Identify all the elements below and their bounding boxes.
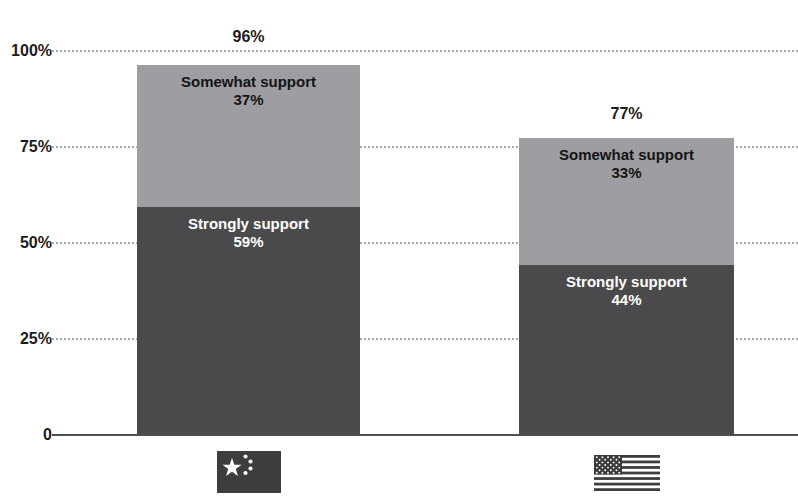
- bar-total-label-usa: 77%: [519, 105, 734, 123]
- segment-value: 44%: [611, 291, 641, 309]
- bar-segment-somewhat-support-usa[interactable]: Somewhat support 33%: [519, 138, 734, 265]
- segment-label: Strongly support: [188, 216, 309, 233]
- category-icon-wrap-china: [137, 451, 360, 493]
- bar-segment-somewhat-support-china[interactable]: Somewhat support 37%: [137, 65, 360, 207]
- y-axis-tick-0: 0: [6, 426, 52, 444]
- bar-usa[interactable]: Somewhat support 33% Strongly support 44…: [519, 138, 734, 434]
- chart-title-clipped: [0, 0, 798, 2]
- x-axis-line: [52, 434, 798, 436]
- segment-label: Somewhat support: [181, 74, 316, 91]
- gridline-100: [52, 50, 798, 52]
- category-icon-wrap-usa: [519, 455, 734, 491]
- segment-label: Strongly support: [566, 274, 687, 291]
- bar-total-label-china: 96%: [137, 28, 360, 46]
- bar-segment-strongly-support-usa[interactable]: Strongly support 44%: [519, 265, 734, 434]
- y-axis-tick-50: 50%: [6, 234, 52, 252]
- segment-value: 33%: [611, 164, 641, 182]
- china-flag-icon: [217, 451, 281, 493]
- stacked-bar-chart: 100% 75% 50% 25% 0 96% Somewhat support …: [0, 0, 798, 498]
- bar-segment-strongly-support-china[interactable]: Strongly support 59%: [137, 207, 360, 434]
- y-axis-tick-100: 100%: [6, 42, 52, 60]
- segment-value: 59%: [233, 233, 263, 251]
- segment-value: 37%: [233, 91, 263, 109]
- bar-china[interactable]: Somewhat support 37% Strongly support 59…: [137, 65, 360, 434]
- usa-flag-icon: [594, 455, 660, 491]
- y-axis-tick-75: 75%: [6, 138, 52, 156]
- y-axis-tick-25: 25%: [6, 330, 52, 348]
- segment-label: Somewhat support: [559, 147, 694, 164]
